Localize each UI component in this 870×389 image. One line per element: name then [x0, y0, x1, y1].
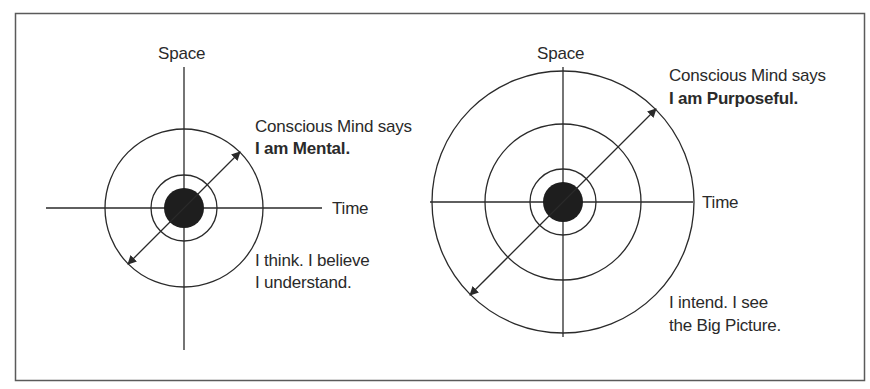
right-space-label: Space — [537, 43, 584, 64]
left-caption-line1: Conscious Mind says — [255, 116, 412, 137]
right-caption-line2: I am Purposeful. — [669, 88, 798, 109]
right-note-line1: I intend. I see — [669, 292, 768, 313]
left-note-line1: I think. I believe — [255, 250, 370, 271]
left-space-label: Space — [158, 43, 205, 64]
right-diagram — [430, 67, 694, 337]
right-time-label: Time — [702, 192, 738, 213]
left-time-label: Time — [332, 198, 368, 219]
left-caption-line2: I am Mental. — [255, 138, 350, 159]
left-note-line2: I understand. — [255, 272, 352, 293]
right-note-line2: the Big Picture. — [669, 315, 781, 336]
right-caption-line1: Conscious Mind says — [669, 65, 826, 86]
left-diagram — [46, 67, 322, 350]
